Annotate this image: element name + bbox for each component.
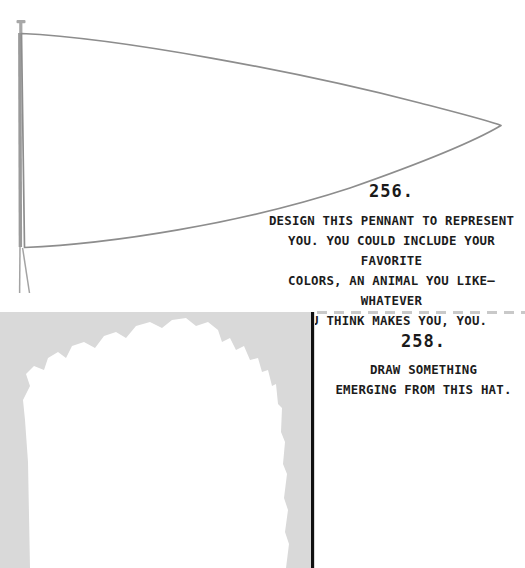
activity-book-page: 256. DESIGN THIS PENNANT TO REPRESENT YO… [0,0,525,568]
prompt-258-body: DRAW SOMETHING EMERGING FROM THIS HAT. [322,360,525,400]
prompt-258: 258. DRAW SOMETHING EMERGING FROM THIS H… [322,333,525,400]
dashed-divider [317,311,525,314]
hat-illustration [0,312,315,568]
vertical-black-rule [311,312,314,568]
prompt-258-number: 258. [322,333,525,350]
prompt-256-number: 256. [258,183,525,200]
pole-tail-right [23,248,30,293]
pole-finial-neck [19,23,22,34]
pennant-panel: 256. DESIGN THIS PENNANT TO REPRESENT YO… [0,0,525,312]
prompt-256: 256. DESIGN THIS PENNANT TO REPRESENT YO… [258,183,525,331]
hat-panel [0,312,315,568]
pennant-pole [20,33,21,247]
